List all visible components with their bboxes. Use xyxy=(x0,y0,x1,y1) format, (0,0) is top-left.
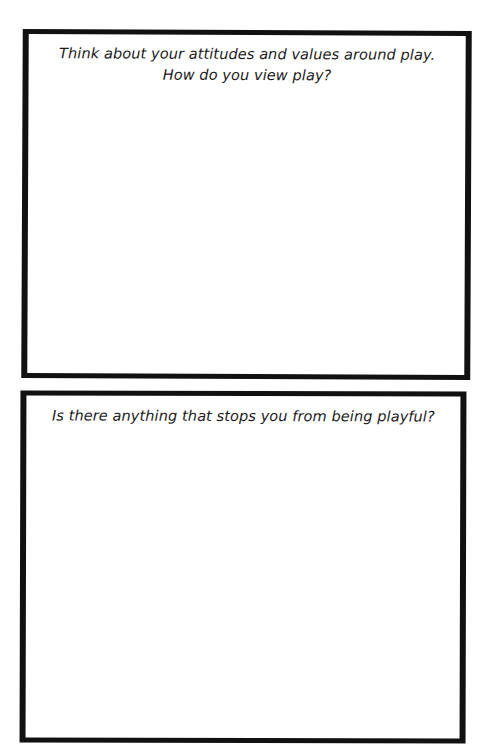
prompt-line: Think about your attitudes and values ar… xyxy=(29,43,466,66)
reflection-box-attitudes: Think about your attitudes and values ar… xyxy=(21,29,472,380)
answer-area-attitudes[interactable] xyxy=(35,90,457,367)
prompt-barriers: Is there anything that stops you from be… xyxy=(26,405,460,427)
reflection-box-barriers: Is there anything that stops you from be… xyxy=(20,390,467,743)
answer-area-barriers[interactable] xyxy=(34,431,453,730)
prompt-attitudes: Think about your attitudes and values ar… xyxy=(29,43,466,87)
prompt-line: How do you view play? xyxy=(29,64,466,87)
prompt-line: Is there anything that stops you from be… xyxy=(26,405,460,427)
